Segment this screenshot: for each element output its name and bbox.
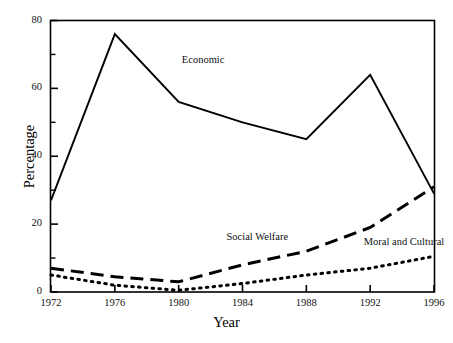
x-tick-label: 1972 <box>29 297 73 308</box>
x-tick-label: 1984 <box>221 297 265 308</box>
y-tick-label: 20 <box>8 217 42 228</box>
series-label-moral-and-cultural: Moral and Cultural <box>364 236 444 247</box>
series-label-social-welfare: Social Welfare <box>227 231 289 242</box>
y-tick-label: 60 <box>8 81 42 92</box>
x-tick-label: 1992 <box>348 297 392 308</box>
series-label-economic: Economic <box>182 54 225 65</box>
x-tick-label: 1988 <box>284 297 328 308</box>
chart-canvas <box>0 0 453 343</box>
x-axis-title: Year <box>0 314 453 331</box>
chart-figure: 020406080 1972197619801984198819921996 P… <box>0 0 453 343</box>
x-tick-label: 1980 <box>157 297 201 308</box>
y-axis-title: Percentage <box>21 102 38 212</box>
series-line-economic <box>51 34 434 200</box>
y-axis-major-ticks <box>51 21 58 293</box>
x-tick-label: 1996 <box>412 297 453 308</box>
x-tick-label: 1976 <box>93 297 137 308</box>
x-axis-major-ticks <box>51 285 434 292</box>
y-tick-label: 0 <box>8 285 42 296</box>
y-tick-label: 80 <box>8 14 42 25</box>
series-lines <box>51 34 434 290</box>
plot-frame <box>51 21 435 293</box>
